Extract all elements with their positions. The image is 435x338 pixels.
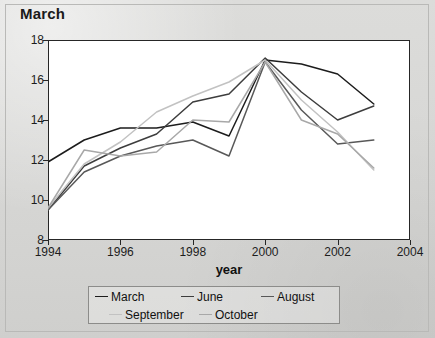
x-tick-label: 1998 (179, 245, 206, 259)
legend-swatch-september-icon (109, 314, 122, 315)
x-tick-label: 2002 (324, 245, 351, 259)
x-axis-title: year (48, 262, 410, 277)
legend-swatch-june-icon (181, 296, 194, 297)
legend-swatch-october-icon (199, 314, 212, 315)
y-tick-label: 18 (22, 33, 44, 47)
legend-label: June (197, 291, 223, 303)
legend-item-october: October (199, 309, 258, 321)
x-tick-label: 2004 (397, 245, 424, 259)
plot-area (48, 40, 410, 240)
legend-item-march: March (95, 291, 144, 303)
series-line-october (48, 62, 374, 208)
legend-swatch-august-icon (261, 296, 274, 297)
legend-row-2: SeptemberOctober (89, 306, 339, 323)
x-axis-tick-labels: 199419961998200020022004 (48, 241, 410, 263)
legend-swatch-march-icon (95, 296, 108, 297)
legend-label: September (125, 309, 184, 321)
legend-row-1: MarchJuneAugust (89, 288, 339, 305)
y-tick-label: 10 (22, 193, 44, 207)
series-line-september (48, 60, 374, 208)
series-line-june (48, 58, 374, 210)
legend-label: March (111, 291, 144, 303)
legend-label: October (215, 309, 258, 321)
y-tick-label: 12 (22, 153, 44, 167)
legend-item-june: June (181, 291, 223, 303)
y-axis-tick-labels: 81012141618 (20, 40, 44, 240)
x-tick-label: 1994 (35, 245, 62, 259)
series-lines (48, 40, 410, 240)
legend-item-august: August (261, 291, 314, 303)
x-tick-label: 2000 (252, 245, 279, 259)
legend-label: August (277, 291, 314, 303)
legend-item-september: September (109, 309, 184, 321)
y-tick-label: 14 (22, 113, 44, 127)
chart-title: March (20, 5, 65, 22)
y-tick-label: 16 (22, 73, 44, 87)
legend: MarchJuneAugust SeptemberOctober (88, 286, 340, 324)
x-tick-label: 1996 (107, 245, 134, 259)
screenshot-page: March 81012141618 1994199619982000200220… (0, 0, 435, 338)
